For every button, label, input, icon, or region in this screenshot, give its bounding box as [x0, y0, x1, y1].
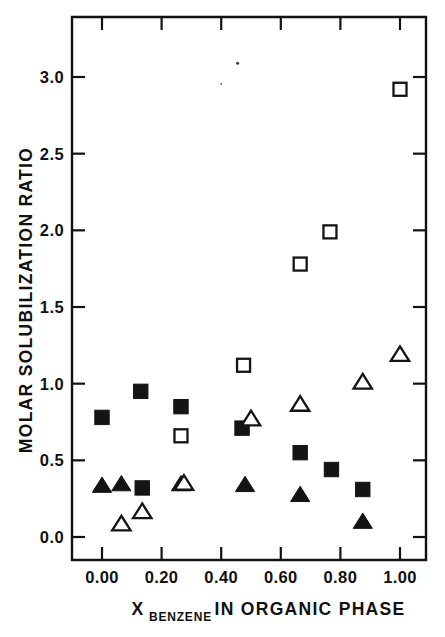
x-axis-tick-labels: 0.000.200.400.600.801.00 [85, 568, 417, 586]
speck [220, 83, 222, 85]
marker-open-square [323, 225, 336, 238]
marker-open-square [174, 429, 187, 442]
marker-open-square [294, 258, 307, 271]
marker-open-triangle [354, 374, 372, 389]
marker-filled-triangle [92, 477, 111, 492]
marker-filled-square [95, 410, 109, 424]
y-axis-title: MOLAR SOLUBILIZATION RATIO [16, 147, 36, 453]
marker-filled-triangle [112, 476, 131, 491]
y-tick-label: 0.5 [40, 451, 64, 469]
axis-frame [72, 17, 426, 560]
x-axis-title-subscript: BENZENE [149, 610, 212, 624]
x-tick-label: 0.00 [85, 568, 119, 586]
y-axis-ticks [72, 77, 426, 537]
x-axis-ticks [102, 17, 400, 560]
x-axis-title-symbol: X [132, 599, 145, 619]
marker-filled-triangle [235, 476, 254, 491]
x-tick-label: 0.40 [204, 568, 238, 586]
scatter-plot: 0.000.200.400.600.801.00 0.00.51.01.52.0… [0, 0, 445, 637]
marker-filled-square [356, 482, 370, 496]
y-tick-label: 3.0 [40, 68, 64, 86]
print-artifacts [220, 62, 239, 85]
figure-page: 0.000.200.400.600.801.00 0.00.51.01.52.0… [0, 0, 445, 637]
marker-filled-square [174, 399, 188, 413]
marker-filled-square [134, 384, 148, 398]
x-tick-label: 1.00 [383, 568, 417, 586]
marker-filled-square [324, 462, 338, 476]
marker-open-triangle [133, 504, 151, 519]
x-tick-label: 0.60 [264, 568, 298, 586]
y-axis-tick-labels: 0.00.51.01.52.02.53.0 [40, 68, 64, 546]
marker-filled-triangle [291, 486, 310, 501]
speck [236, 62, 239, 65]
x-axis-title-main: IN ORGANIC PHASE [215, 599, 406, 619]
y-tick-label: 1.5 [40, 298, 64, 316]
marker-filled-square [135, 481, 149, 495]
y-tick-label: 1.0 [40, 375, 64, 393]
marker-open-square [237, 359, 250, 372]
marker-open-triangle [242, 411, 260, 426]
y-tick-label: 2.5 [40, 145, 64, 163]
x-tick-label: 0.20 [145, 568, 179, 586]
y-tick-label: 2.0 [40, 221, 64, 239]
x-tick-label: 0.80 [324, 568, 358, 586]
y-tick-label: 0.0 [40, 528, 64, 546]
marker-open-square [394, 83, 407, 96]
marker-filled-square [293, 445, 307, 459]
data-points [92, 83, 409, 531]
marker-open-triangle [291, 396, 309, 411]
marker-open-triangle [391, 346, 409, 361]
marker-filled-triangle [353, 513, 372, 528]
marker-open-triangle [112, 516, 130, 531]
plot-frame [72, 17, 426, 560]
